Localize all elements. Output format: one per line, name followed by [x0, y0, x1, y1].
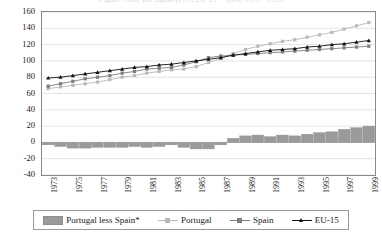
x-axis-tick: 1973 [51, 177, 59, 193]
legend-item-0[interactable]: Portugal less Spain* [43, 215, 140, 225]
legend-item-1[interactable]: Portugal [158, 215, 212, 225]
legend-label: Spain [253, 215, 274, 225]
y-axis-tick: 40 [27, 105, 36, 114]
legend-item-3[interactable]: EU-15 [292, 215, 339, 225]
x-axis-tick: 1983 [175, 177, 183, 193]
y-axis-tick: 0 [31, 137, 35, 146]
x-axis-tick: 1985 [199, 177, 207, 193]
x-axis-tick: 1975 [76, 177, 84, 193]
y-axis-tick: 160 [22, 7, 35, 16]
x-axis-tick: 1979 [125, 177, 133, 193]
y-axis-tick: -20 [24, 153, 35, 162]
x-axis-tick: 1995 [323, 177, 331, 193]
plot-inner [42, 12, 375, 175]
legend-line-swatch-icon [158, 217, 178, 224]
legend-label: Portugal [181, 215, 212, 225]
x-axis-tick: 1997 [347, 177, 355, 193]
y-axis-tick: -40 [24, 170, 35, 179]
legend-label: EU-15 [315, 215, 339, 225]
legend-line-swatch-icon [292, 217, 312, 224]
y-axis-tick: 20 [27, 121, 36, 130]
chart-title: Figure: GDP per capita (PPS, EU-15 = 100… [0, 0, 382, 3]
x-axis-tick: 1993 [298, 177, 306, 193]
legend-line-swatch-icon [230, 217, 250, 224]
y-axis-labels: 160140120100806040200-20-40 [0, 0, 38, 190]
y-axis-tick: 60 [27, 88, 36, 97]
x-axis-tick: 1977 [101, 177, 109, 193]
x-axis-tick: 1987 [224, 177, 232, 193]
chart-svg [42, 12, 375, 175]
x-axis-tick: 1991 [273, 177, 281, 193]
x-axis-tick: 1989 [249, 177, 257, 193]
y-axis-tick: 140 [22, 23, 35, 32]
chart-legend: Portugal less Spain*PortugalSpainEU-15 [33, 210, 349, 230]
legend-bar-swatch-icon [43, 216, 63, 225]
y-axis-tick: 100 [22, 56, 35, 65]
legend-item-2[interactable]: Spain [230, 215, 274, 225]
y-axis-tick: 80 [27, 72, 36, 81]
chart-container: Figure: GDP per capita (PPS, EU-15 = 100… [0, 0, 382, 241]
x-axis-tick: 1981 [150, 177, 158, 193]
y-axis-tick: 120 [22, 39, 35, 48]
plot-area [41, 11, 376, 176]
legend-label: Portugal less Spain* [66, 215, 140, 225]
x-axis-tick: 1999 [372, 177, 380, 193]
x-axis-labels: 1973197519771979198119831985198719891991… [41, 176, 376, 206]
